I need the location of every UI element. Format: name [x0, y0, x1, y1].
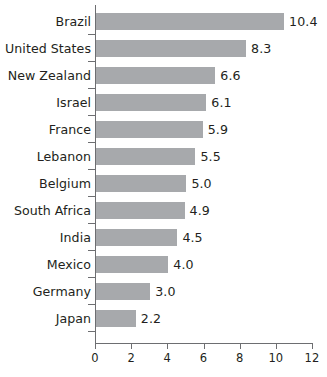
y-tick — [88, 304, 95, 305]
bar-value-label: 4.0 — [173, 251, 193, 278]
bar-value-label: 3.0 — [155, 278, 175, 305]
bar — [96, 94, 206, 111]
bar-row: Brazil10.4 — [0, 8, 327, 35]
bar-row: France5.9 — [0, 116, 327, 143]
bar-value-label: 8.3 — [251, 35, 271, 62]
x-tick-label: 10 — [264, 352, 288, 365]
bar — [96, 202, 185, 219]
x-tick — [312, 343, 313, 349]
bar-value-label: 6.1 — [211, 89, 231, 116]
bar-row: Israel6.1 — [0, 89, 327, 116]
category-label: Belgium — [39, 170, 91, 197]
category-label: Israel — [56, 89, 91, 116]
bar-row: Japan2.2 — [0, 305, 327, 332]
y-tick — [88, 61, 95, 62]
bar — [96, 121, 203, 138]
x-tick-label: 4 — [155, 352, 179, 365]
bar-row: South Africa4.9 — [0, 197, 327, 224]
y-tick — [88, 250, 95, 251]
bar-row: Germany3.0 — [0, 278, 327, 305]
x-tick-label: 8 — [228, 352, 252, 365]
bar-value-label: 4.9 — [190, 197, 210, 224]
x-tick-label: 2 — [119, 352, 143, 365]
category-label: New Zealand — [8, 62, 91, 89]
bar — [96, 175, 186, 192]
category-label: Brazil — [56, 8, 91, 35]
plot-area: Brazil10.4United States8.3New Zealand6.6… — [0, 0, 327, 377]
bar-row: Lebanon5.5 — [0, 143, 327, 170]
bar-value-label: 6.6 — [220, 62, 240, 89]
category-label: United States — [5, 35, 91, 62]
bar-value-label: 5.0 — [191, 170, 211, 197]
bar-value-label: 10.4 — [289, 8, 317, 35]
bar-value-label: 2.2 — [141, 305, 161, 332]
bar — [96, 310, 136, 327]
bar-row: India4.5 — [0, 224, 327, 251]
y-tick — [88, 277, 95, 278]
bar — [96, 13, 284, 30]
bar — [96, 40, 246, 57]
bar-row: New Zealand6.6 — [0, 62, 327, 89]
bar — [96, 148, 195, 165]
x-tick-label: 12 — [300, 352, 324, 365]
bar — [96, 256, 168, 273]
bar-value-label: 5.9 — [208, 116, 228, 143]
bar-row: Mexico4.0 — [0, 251, 327, 278]
category-label: Japan — [56, 305, 91, 332]
bar-chart: Brazil10.4United States8.3New Zealand6.6… — [0, 0, 327, 377]
bar-value-label: 5.5 — [200, 143, 220, 170]
x-tick — [204, 343, 205, 349]
bar-row: Belgium5.0 — [0, 170, 327, 197]
y-tick — [88, 223, 95, 224]
bar — [96, 229, 177, 246]
x-tick — [167, 343, 168, 349]
category-label: India — [60, 224, 91, 251]
y-tick — [88, 34, 95, 35]
y-tick — [88, 331, 95, 332]
y-tick — [88, 169, 95, 170]
x-tick — [276, 343, 277, 349]
bar — [96, 283, 150, 300]
x-tick — [95, 343, 96, 349]
bar — [96, 67, 215, 84]
x-tick-label: 0 — [83, 352, 107, 365]
category-label: Lebanon — [37, 143, 91, 170]
y-tick — [88, 88, 95, 89]
y-tick — [88, 196, 95, 197]
category-label: France — [49, 116, 91, 143]
y-tick — [88, 115, 95, 116]
x-tick — [131, 343, 132, 349]
bar-row: United States8.3 — [0, 35, 327, 62]
bar-value-label: 4.5 — [182, 224, 202, 251]
category-label: Germany — [33, 278, 91, 305]
y-tick — [88, 142, 95, 143]
x-tick — [240, 343, 241, 349]
category-label: South Africa — [14, 197, 91, 224]
category-label: Mexico — [47, 251, 91, 278]
x-tick-label: 6 — [192, 352, 216, 365]
